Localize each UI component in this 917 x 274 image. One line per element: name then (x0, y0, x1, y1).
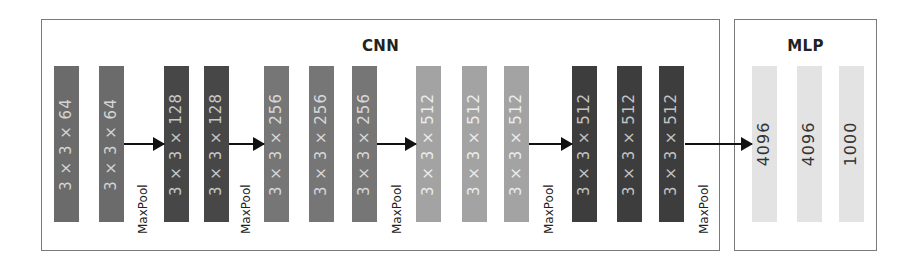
conv-block-label: 3 × 3 × 128 (169, 93, 184, 196)
cnn-title: CNN (42, 37, 719, 55)
conv-block-label: 3 × 3 × 256 (314, 93, 329, 196)
maxpool-arrow-2 (229, 143, 264, 145)
fc-block-3: 1000 (839, 66, 864, 222)
conv-block-label: 3 × 3 × 128 (209, 93, 224, 196)
conv-block-6: 3 × 3 × 256 (309, 66, 334, 222)
conv-block-7: 3 × 3 × 256 (352, 66, 377, 222)
conv-block-3: 3 × 3 × 128 (164, 66, 189, 222)
conv-block-4: 3 × 3 × 128 (204, 66, 229, 222)
conv-block-9: 3 × 3 × 512 (462, 66, 487, 222)
conv-block-label: 3 × 3 × 512 (467, 93, 482, 196)
fc-block-2: 4096 (797, 66, 822, 222)
maxpool-label-4: MaxPool (543, 184, 555, 234)
maxpool-label-2: MaxPool (240, 184, 252, 234)
conv-block-10: 3 × 3 × 512 (504, 66, 529, 222)
conv-block-5: 3 × 3 × 256 (264, 66, 289, 222)
conv-block-11: 3 × 3 × 512 (572, 66, 597, 222)
maxpool-label-5: MaxPool (698, 184, 710, 234)
maxpool-arrow-1 (124, 143, 164, 145)
fc-block-label: 4096 (757, 122, 773, 167)
conv-block-8: 3 × 3 × 512 (416, 66, 441, 222)
maxpool-arrow-3 (377, 143, 416, 145)
conv-block-label: 3 × 3 × 512 (577, 93, 592, 196)
mlp-title: MLP (735, 37, 876, 55)
maxpool-label-3: MaxPool (391, 184, 403, 234)
conv-block-12: 3 × 3 × 512 (617, 66, 642, 222)
fc-block-label: 4096 (802, 122, 818, 167)
conv-block-label: 3 × 3 × 256 (269, 93, 284, 196)
conv-block-label: 3 × 3 × 64 (59, 98, 74, 190)
conv-block-label: 3 × 3 × 512 (622, 93, 637, 196)
conv-block-2: 3 × 3 × 64 (99, 66, 124, 222)
maxpool-arrow-5 (685, 143, 752, 145)
conv-block-label: 3 × 3 × 512 (509, 93, 524, 196)
conv-block-label: 3 × 3 × 512 (664, 93, 679, 196)
conv-block-label: 3 × 3 × 256 (357, 93, 372, 196)
conv-block-1: 3 × 3 × 64 (54, 66, 79, 222)
conv-block-label: 3 × 3 × 512 (421, 93, 436, 196)
maxpool-arrow-4 (529, 143, 572, 145)
conv-block-label: 3 × 3 × 64 (104, 98, 119, 190)
fc-block-label: 1000 (844, 122, 860, 167)
fc-block-1: 4096 (752, 66, 777, 222)
maxpool-label-1: MaxPool (137, 184, 149, 234)
conv-block-13: 3 × 3 × 512 (659, 66, 684, 222)
